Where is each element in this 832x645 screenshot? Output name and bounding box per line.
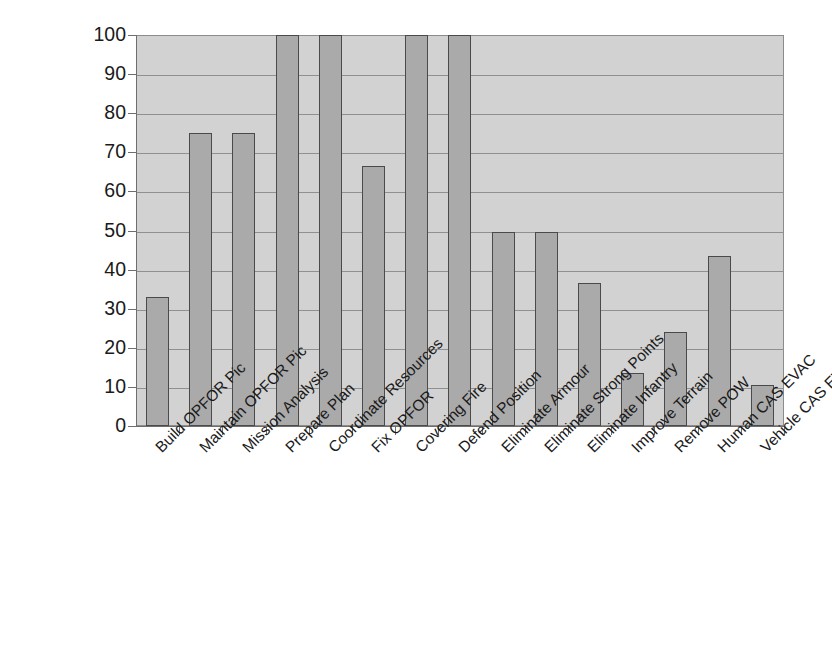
y-axis-tick	[128, 35, 136, 36]
y-axis-tick-label: 90	[68, 64, 126, 84]
y-axis-line	[136, 35, 137, 427]
bar-slot	[352, 35, 395, 426]
y-axis-tick-label: 30	[68, 299, 126, 319]
y-axis-tick-label: 50	[68, 221, 126, 241]
x-axis-tick-label: Covering Fire	[412, 444, 423, 455]
y-axis-tick	[128, 309, 136, 310]
bar-slot	[741, 35, 784, 426]
bar[interactable]	[189, 133, 212, 426]
x-axis-tick-label: Improve Terrain	[628, 444, 639, 455]
x-axis-tick-label: Eliminate Infantry	[585, 444, 596, 455]
x-axis-tick-label: Eliminate Strong Points	[542, 444, 553, 455]
x-axis-tick-label: Vehicle CAS EVAC	[758, 444, 769, 455]
y-axis-tick-label: 20	[68, 338, 126, 358]
y-axis-tick	[128, 426, 136, 427]
y-axis-tick-label: 70	[68, 142, 126, 162]
y-axis-tick	[128, 348, 136, 349]
y-axis-tick-label: 10	[68, 377, 126, 397]
y-axis-tick	[128, 231, 136, 232]
x-axis-tick-label: Coordinate Resources	[326, 444, 337, 455]
x-axis-tick-label: Fix OPFOR	[369, 444, 380, 455]
bar[interactable]	[448, 35, 471, 426]
x-axis-tick-label: Build OPFOR Pic	[153, 444, 164, 455]
y-axis-tick	[128, 387, 136, 388]
y-axis-tick	[128, 113, 136, 114]
y-axis-tick	[128, 270, 136, 271]
bar-slot	[698, 35, 741, 426]
x-axis-tick-label: Eliminate Armour	[499, 444, 510, 455]
x-axis-tick-label: Human CAS EVAC	[715, 444, 726, 455]
x-axis-tick-label: Mission Analysis	[239, 444, 250, 455]
bar-slot	[136, 35, 179, 426]
y-axis-tick-label: 40	[68, 260, 126, 280]
y-axis-tick-label: 80	[68, 103, 126, 123]
bar-slot	[438, 35, 481, 426]
y-axis-tick-label: 60	[68, 181, 126, 201]
y-axis-tick	[128, 191, 136, 192]
bar[interactable]	[146, 297, 169, 426]
bar-slot	[179, 35, 222, 426]
x-axis-tick-label: Prepare Plan	[283, 444, 294, 455]
y-axis-tick-label: 100	[68, 25, 126, 45]
bar-slot	[482, 35, 525, 426]
x-axis-tick-label: Remove POW	[671, 444, 682, 455]
y-axis-tick	[128, 152, 136, 153]
y-axis-tick	[128, 74, 136, 75]
x-axis-tick-label: Defend Position	[455, 444, 466, 455]
bar-chart: 0102030405060708090100 Build OPFOR PicMa…	[0, 0, 832, 645]
x-axis-tick-label: Maintain OPFOR Pic	[196, 444, 207, 455]
y-axis-tick-label: 0	[68, 416, 126, 436]
